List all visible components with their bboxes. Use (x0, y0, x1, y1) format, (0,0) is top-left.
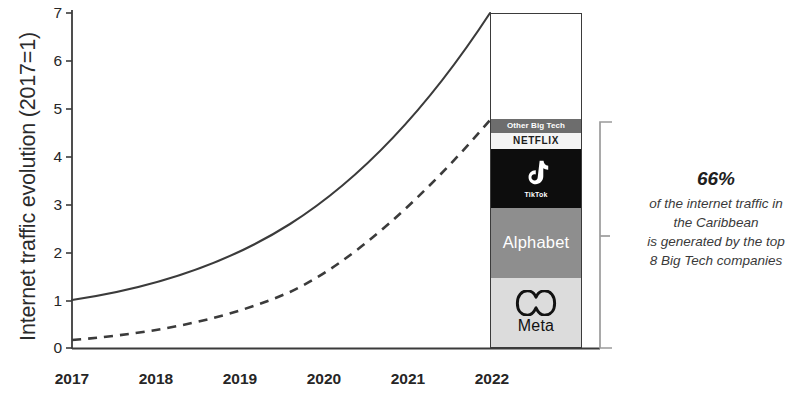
tiktok-note-icon (523, 160, 549, 190)
x-tick-2021: 2021 (373, 370, 443, 388)
chart-root: Internet traffic evolution (2017=1) 7 6 … (0, 0, 810, 416)
bar-segment-label-alphabet: Alphabet (503, 234, 570, 251)
bar-segment-netflix[interactable]: NETFLIX (491, 133, 581, 149)
x-tick-2019: 2019 (205, 370, 275, 388)
bar-segment-other-big-tech[interactable]: Other Big Tech (491, 119, 581, 133)
x-tick-2018: 2018 (121, 370, 191, 388)
bigtech-bracket (600, 122, 612, 348)
x-tick-2017: 2017 (37, 370, 107, 388)
bar-segment-label-tiktok: TikTok (524, 191, 547, 198)
bar-segment-label-meta: Meta (518, 317, 554, 335)
bar-segment-meta[interactable]: Meta (491, 278, 581, 347)
stacked-bar-2022: Other Big Tech NETFLIX TikTok Alphabet M… (490, 13, 582, 348)
annotation-line-4: 8 Big Tech companies (630, 251, 802, 270)
annotation-line-2: the Caribbean (630, 213, 802, 232)
annotation-percent: 66% (630, 168, 802, 190)
bar-segment-tiktok[interactable]: TikTok (491, 149, 581, 208)
annotation-line-3: is generated by the top (630, 232, 802, 251)
bar-segment-label-other-big-tech: Other Big Tech (507, 122, 565, 130)
bar-segment-alphabet[interactable]: Alphabet (491, 208, 581, 278)
x-tick-2022: 2022 (457, 370, 527, 388)
annotation-callout: 66% of the internet traffic in the Carib… (630, 168, 802, 271)
meta-infinity-icon (515, 290, 557, 316)
series-line-total-traffic (72, 13, 490, 300)
x-tick-2020: 2020 (289, 370, 359, 388)
bar-segment-label-netflix: NETFLIX (513, 136, 559, 147)
annotation-line-1: of the internet traffic in (630, 194, 802, 213)
